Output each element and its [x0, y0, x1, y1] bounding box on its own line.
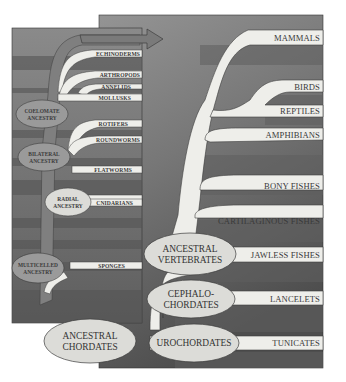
node-radial-ancestry [45, 188, 91, 216]
node-coelomate-ancestry [16, 100, 68, 128]
node-cephalochordates [147, 280, 235, 318]
node-text-anc-chord-1: ANCESTRAL [62, 331, 117, 341]
node-text-anc-vert-2: VERTEBRATES [158, 255, 223, 265]
label-flatworms: FLATWORMS [94, 167, 132, 173]
label-tunicates: TUNICATES [272, 338, 320, 348]
node-text-urochordates: UROCHORDATES [156, 338, 231, 348]
node-text-coelomate-2: ANCESTRY [27, 115, 57, 121]
label-reptiles: REPTILES [280, 106, 320, 116]
node-text-multicelled-2: ANCESTRY [23, 269, 53, 275]
label-cnidarians: CNIDARIANS [96, 200, 133, 206]
node-ancestral-vertebrates [144, 233, 236, 275]
node-bilateral-ancestry [18, 143, 70, 171]
node-ancestral-chordates [44, 319, 136, 363]
node-text-multicelled-1: MULTICELLED [18, 262, 58, 268]
node-text-radial-1: RADIAL [57, 196, 79, 202]
label-mammals: MAMMALS [274, 33, 320, 43]
label-roundworms: ROUNDWORMS [96, 137, 140, 143]
node-text-anc-chord-2: CHORDATES [62, 342, 117, 352]
label-birds: BIRDS [294, 82, 320, 92]
label-arthropods: ARTHROPODS [100, 72, 140, 78]
label-echinoderms: ECHINODERMS [96, 51, 140, 57]
phylogeny-diagram: ECHINODERMS ARTHROPODS ANNELIDS MOLLUSKS… [0, 0, 346, 382]
label-cartilaginous-fishes: CARTILAGINOUS FISHES [218, 216, 320, 226]
node-multicelled-ancestry [12, 253, 64, 283]
label-jawless-fishes: JAWLESS FISHES [251, 250, 320, 260]
node-text-bilateral-2: ANCESTRY [29, 158, 59, 164]
node-text-anc-vert-1: ANCESTRAL [162, 244, 217, 254]
label-sponges: SPONGES [98, 263, 125, 269]
label-bony-fishes: BONY FISHES [264, 181, 320, 191]
node-text-cephalo-2: CHORDATES [163, 300, 218, 310]
label-annelids: ANNELIDS [101, 84, 131, 90]
node-text-cephalo-1: CEPHALO- [168, 289, 214, 299]
label-mollusks: MOLLUSKS [98, 95, 131, 101]
node-text-bilateral-1: BILATERAL [28, 151, 60, 157]
label-rotifers: ROTIFERS [99, 121, 128, 127]
label-lancelets: LANCELETS [270, 294, 320, 304]
label-amphibians: AMPHIBIANS [266, 130, 321, 140]
node-text-radial-2: ANCESTRY [53, 203, 83, 209]
node-text-coelomate-1: COELOMATE [24, 108, 60, 114]
